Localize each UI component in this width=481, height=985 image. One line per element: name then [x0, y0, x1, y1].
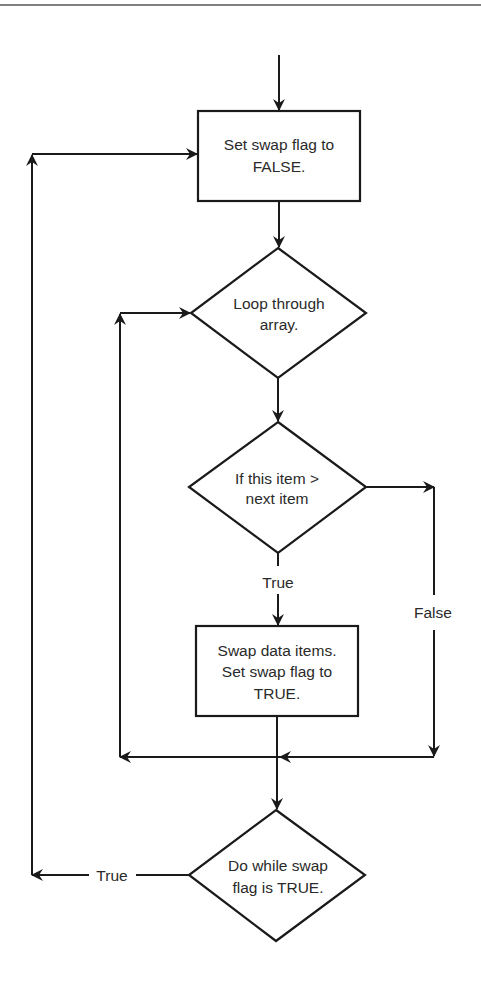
- process-box: [198, 111, 360, 201]
- node-compare-items: If this item > next item: [189, 422, 366, 553]
- node-text: next item: [246, 490, 309, 507]
- node-set-swap-false: Set swap flag to FALSE.: [198, 111, 360, 201]
- node-text: Swap data items.: [218, 642, 337, 659]
- node-text: If this item >: [235, 470, 319, 487]
- node-loop-through-array: Loop through array.: [191, 248, 366, 378]
- node-swap-items: Swap data items. Set swap flag to TRUE.: [196, 626, 358, 716]
- node-text: FALSE.: [253, 158, 306, 175]
- node-text: TRUE.: [254, 685, 301, 702]
- decision-diamond: [189, 422, 366, 553]
- node-text: Loop through: [233, 295, 324, 312]
- node-text: Set swap flag to: [222, 663, 332, 680]
- node-text: array.: [260, 316, 298, 333]
- edge-label-false: False: [414, 604, 452, 621]
- decision-diamond: [189, 810, 365, 941]
- flowchart-canvas: Set swap flag to FALSE. Loop through arr…: [0, 0, 481, 985]
- node-text: Do while swap: [228, 857, 328, 874]
- node-do-while: Do while swap flag is TRUE.: [189, 810, 365, 941]
- edge-label-outer-true: True: [96, 867, 127, 884]
- node-text: Set swap flag to: [224, 136, 334, 153]
- edge-label-true: True: [262, 574, 293, 591]
- node-text: flag is TRUE.: [232, 879, 323, 896]
- decision-diamond: [191, 248, 366, 378]
